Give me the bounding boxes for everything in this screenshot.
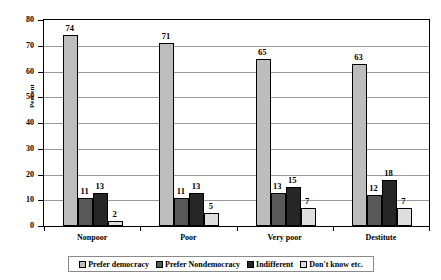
y-tick-mark [38,200,43,201]
bar-value-label: 15 [279,176,306,185]
bar [301,208,316,226]
legend-swatch-icon [79,261,86,268]
bar-value-label: 2 [101,210,128,219]
bar [286,187,301,226]
x-category-label: Poor [140,233,236,242]
bar-value-label: 13 [182,182,209,191]
bar-value-label: 71 [152,32,179,41]
x-tick-mark [237,227,238,231]
y-tick-label: 40 [0,119,34,127]
y-tick-mark [38,175,43,176]
y-tick-mark [38,72,43,73]
bar [397,208,412,226]
bar [204,213,219,226]
bar-value-label: 7 [294,197,321,206]
y-tick-mark [38,46,43,47]
bar [63,35,78,226]
bar-value-label: 13 [86,182,113,191]
y-tick-mark [38,123,43,124]
bar-chart: Percent 01020304050607080 NonpoorPoorVer… [0,0,441,280]
gridline [44,46,429,47]
bar [159,43,174,226]
bar-value-label: 74 [56,24,83,33]
legend-label: Don't know etc. [309,260,363,269]
plot-area [43,19,430,227]
legend-label: Prefer democracy [88,260,149,269]
legend-swatch-icon [247,261,254,268]
x-tick-mark [333,227,334,231]
legend-item: Don't know etc. [300,260,363,269]
bar-value-label: 18 [375,169,402,178]
gridline [44,72,429,73]
bar [108,221,123,226]
y-tick-label: 80 [0,16,34,24]
y-tick-label: 0 [0,222,34,230]
legend-swatch-icon [156,261,163,268]
bar [78,198,93,226]
bar [352,64,367,226]
x-tick-mark [140,227,141,231]
bar [256,59,271,226]
y-tick-mark [38,226,43,227]
legend-label: Indifferent [256,260,293,269]
y-tick-label: 10 [0,196,34,204]
legend-item: Indifferent [247,260,293,269]
bar-value-label: 5 [197,202,224,211]
x-tick-mark [44,227,45,231]
bar [174,198,189,226]
gridline [44,123,429,124]
x-category-label: Nonpoor [44,233,140,242]
legend-label: Prefer Nondemocracy [165,260,240,269]
bar [271,193,286,226]
bar-value-label: 7 [390,197,417,206]
gridline [44,97,429,98]
legend-item: Prefer democracy [79,260,149,269]
y-tick-label: 60 [0,68,34,76]
y-tick-mark [38,149,43,150]
legend-item: Prefer Nondemocracy [156,260,240,269]
x-category-label: Very poor [237,233,333,242]
y-tick-label: 20 [0,171,34,179]
bar-value-label: 63 [345,53,372,62]
bar [367,195,382,226]
legend-swatch-icon [300,261,307,268]
gridline [44,175,429,176]
x-tick-mark [429,227,430,231]
bar-value-label: 12 [360,184,387,193]
bar-value-label: 65 [249,48,276,57]
y-tick-label: 30 [0,145,34,153]
y-tick-mark [38,20,43,21]
y-tick-label: 50 [0,93,34,101]
x-category-label: Destitute [333,233,429,242]
gridline [44,149,429,150]
chart-legend: Prefer democracyPrefer NondemocracyIndif… [68,256,374,272]
y-tick-label: 70 [0,42,34,50]
y-tick-mark [38,97,43,98]
